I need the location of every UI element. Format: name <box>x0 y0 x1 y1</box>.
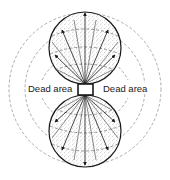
dead-area-label-left: Dead area <box>27 83 73 94</box>
dead-area-label-right: Dead area <box>102 83 148 94</box>
bottom-lobe <box>49 95 121 167</box>
top-lobe <box>49 12 121 84</box>
source-element <box>78 84 93 95</box>
